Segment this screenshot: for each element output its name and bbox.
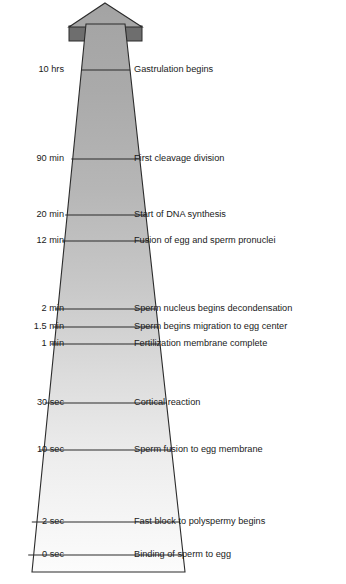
event-label: Start of DNA synthesis — [134, 210, 226, 219]
time-label: 1 min — [42, 339, 64, 348]
event-label: Fusion of egg and sperm pronuclei — [134, 236, 275, 245]
event-label: Sperm nucleus begins decondensation — [134, 304, 292, 313]
time-label: 1.5 min — [34, 322, 64, 331]
arrow-shaft — [32, 24, 185, 572]
time-label: 30 sec — [37, 398, 64, 407]
time-label: 90 min — [36, 154, 64, 163]
event-label: First cleavage division — [134, 154, 224, 163]
fertilization-timeline-figure: 10 hrs90 min20 min12 min2 min1.5 min1 mi… — [0, 0, 346, 584]
event-label: Fertilization membrane complete — [134, 339, 267, 348]
timeline-arrow-graphic — [0, 0, 346, 584]
time-label: 0 sec — [42, 550, 64, 559]
time-label: 10 sec — [37, 445, 64, 454]
time-label: 20 min — [36, 210, 64, 219]
event-label: Binding of sperm to egg — [134, 550, 231, 559]
time-label: 2 min — [42, 304, 64, 313]
event-label: Fast block to polyspermy begins — [134, 517, 265, 526]
time-label: 12 min — [36, 236, 64, 245]
event-label: Gastrulation begins — [134, 65, 213, 74]
event-label: Cortical reaction — [134, 398, 200, 407]
event-label: Sperm fusion to egg membrane — [134, 445, 263, 454]
time-label: 10 hrs — [38, 65, 64, 74]
event-label: Sperm begins migration to egg center — [134, 322, 287, 331]
time-label: 2 sec — [42, 517, 64, 526]
